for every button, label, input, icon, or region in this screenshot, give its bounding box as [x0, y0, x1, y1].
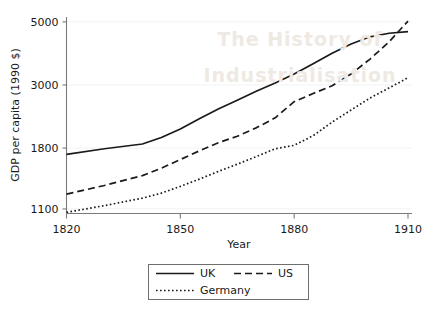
x-tick-label: 1910	[394, 223, 422, 236]
y-tick-label: 5000	[31, 16, 59, 29]
series-line-us	[67, 21, 409, 194]
legend-label-uk: UK	[200, 267, 216, 280]
y-tick-label: 1100	[31, 203, 59, 216]
y-tick-label: 1800	[31, 142, 59, 155]
x-axis-ticks: 1820185018801910	[53, 214, 423, 236]
chart-figure: The History of Industrialisation 1100180…	[0, 0, 428, 309]
y-tick-label: 3000	[31, 79, 59, 92]
y-axis-title: GDP per capita (1990 $)	[9, 48, 22, 181]
chart-legend: UK US Germany	[149, 265, 309, 300]
legend-label-germany: Germany	[200, 284, 251, 297]
data-series-group	[67, 21, 409, 212]
gridlines	[67, 22, 413, 209]
x-tick-label: 1850	[166, 223, 194, 236]
x-tick-label: 1820	[53, 223, 81, 236]
gdp-per-capita-line-chart: 1100180030005000 1820185018801910 GDP pe…	[0, 0, 428, 309]
y-axis-ticks: 1100180030005000	[31, 16, 67, 216]
x-axis-title: Year	[226, 238, 251, 251]
x-tick-label: 1880	[280, 223, 308, 236]
series-line-germany	[67, 78, 409, 213]
legend-label-us: US	[278, 267, 293, 280]
